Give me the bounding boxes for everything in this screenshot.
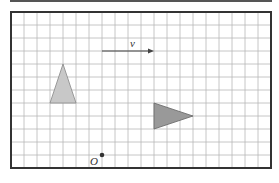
vector-label: v	[130, 37, 135, 49]
triangle-object	[50, 64, 76, 103]
grid-lines	[11, 12, 271, 168]
point-label: O	[90, 155, 98, 167]
grid-diagram: v O	[0, 0, 279, 183]
triangle-image	[154, 103, 193, 129]
arrowhead-icon	[148, 49, 154, 54]
point-dot	[100, 153, 105, 158]
